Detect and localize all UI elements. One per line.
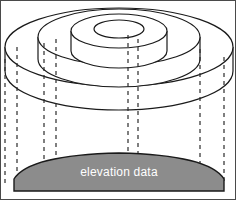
diagram-canvas: elevation data	[1, 1, 236, 200]
inner-contour-band	[71, 14, 167, 68]
contour-elevation-figure: elevation data	[0, 0, 236, 200]
elevation-surface: elevation data	[14, 153, 224, 191]
elevation-surface-label: elevation data	[80, 165, 158, 179]
inner-band-inner-edge	[94, 20, 144, 38]
